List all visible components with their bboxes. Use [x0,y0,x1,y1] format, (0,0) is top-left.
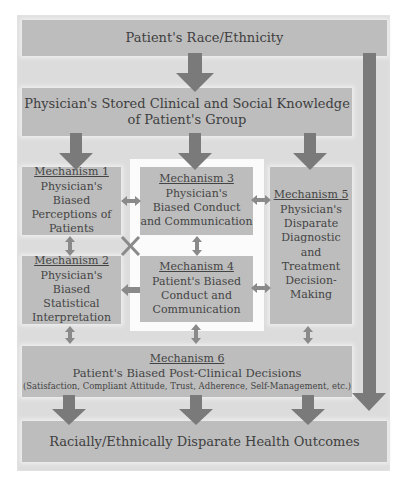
arrows-layer [0,0,403,483]
cross-arrows-icon [122,237,139,255]
double-arrow-icon [191,324,201,344]
arrow-down-icon [59,133,93,170]
double-arrow-icon [251,195,271,205]
double-arrow-icon [65,326,75,344]
arrow-left-icon [121,284,140,296]
arrow-down-icon [176,53,214,92]
arrow-down-icon [178,133,212,170]
double-arrow-icon [121,196,141,206]
arrow-down-icon [291,395,325,425]
double-arrow-icon [303,326,313,344]
double-arrow-icon [192,236,202,256]
double-arrow-icon [251,283,271,293]
arrow-down-icon [352,53,386,411]
arrow-down-icon [52,395,86,425]
arrow-down-icon [179,395,213,425]
double-arrow-icon [65,236,75,256]
arrow-down-icon [293,133,327,170]
